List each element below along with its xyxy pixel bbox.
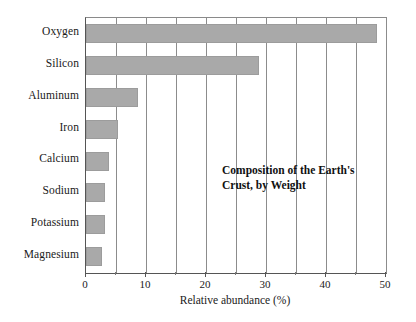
bar-row [86, 114, 386, 146]
category-label: Aluminum [3, 89, 79, 101]
bar[interactable] [86, 247, 102, 266]
bar[interactable] [86, 56, 259, 75]
bar-row [86, 82, 386, 114]
bar[interactable] [86, 215, 105, 234]
x-tick-label: 0 [82, 278, 88, 290]
x-tick-minor [115, 272, 116, 275]
x-tick-major [265, 272, 266, 277]
x-tick-minor [295, 272, 296, 275]
x-tick-label: 20 [200, 278, 211, 290]
x-axis-title: Relative abundance (%) [85, 294, 385, 306]
bar-row [86, 209, 386, 241]
bar-row [86, 50, 386, 82]
category-label: Sodium [3, 184, 79, 196]
x-tick-minor [235, 272, 236, 275]
x-tick-label: 10 [140, 278, 151, 290]
x-tick-minor [175, 272, 176, 275]
gridline [386, 18, 387, 273]
annotation-line: Crust, by Weight [222, 178, 355, 193]
category-label: Calcium [3, 152, 79, 164]
chart-page: OxygenSiliconAluminumIronCalciumSodiumPo… [0, 0, 416, 322]
x-tick-label: 30 [260, 278, 271, 290]
category-label: Oxygen [3, 25, 79, 37]
category-label: Silicon [3, 57, 79, 69]
x-tick-label: 50 [380, 278, 391, 290]
bar[interactable] [86, 183, 105, 202]
annotation-line: Composition of the Earth's [222, 163, 355, 178]
x-tick-major [385, 272, 386, 277]
category-label: Magnesium [3, 248, 79, 260]
chart-annotation: Composition of the Earth'sCrust, by Weig… [222, 163, 355, 193]
bar[interactable] [86, 152, 109, 171]
bar[interactable] [86, 24, 377, 43]
x-tick-major [325, 272, 326, 277]
category-label: Iron [3, 121, 79, 133]
x-tick-major [205, 272, 206, 277]
plot-area [85, 17, 387, 274]
x-tick-label: 40 [320, 278, 331, 290]
bar[interactable] [86, 88, 138, 107]
x-tick-major [85, 272, 86, 277]
bar[interactable] [86, 120, 118, 139]
bar-row [86, 241, 386, 273]
x-tick-major [145, 272, 146, 277]
category-axis-labels: OxygenSiliconAluminumIronCalciumSodiumPo… [0, 17, 79, 272]
bar-row [86, 18, 386, 50]
category-label: Potassium [3, 216, 79, 228]
x-tick-minor [355, 272, 356, 275]
